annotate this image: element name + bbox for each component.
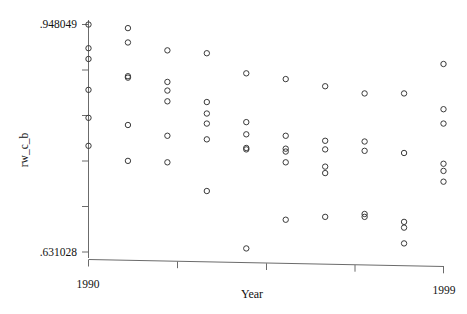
data-point	[283, 160, 288, 165]
data-point	[165, 88, 170, 93]
plot-canvas: .948049 .631028 1990 1999 Year rw_c_b	[0, 0, 467, 314]
x-axis-ticks	[89, 260, 444, 274]
data-point	[283, 133, 288, 138]
data-point-group	[86, 22, 446, 251]
data-point	[125, 40, 130, 45]
data-point	[125, 122, 130, 127]
data-point	[165, 133, 170, 138]
y-axis-title: rw_c_b	[18, 133, 30, 168]
data-point	[401, 91, 406, 96]
data-point	[362, 139, 367, 144]
data-point	[244, 71, 249, 76]
data-point	[322, 164, 327, 169]
data-point	[441, 121, 446, 126]
data-point	[322, 170, 327, 175]
x-axis-max-tick-label: 1999	[433, 284, 456, 296]
data-point	[244, 246, 249, 251]
data-point	[322, 147, 327, 152]
data-point	[362, 91, 367, 96]
scatter-plot-figure: .948049 .631028 1990 1999 Year rw_c_b	[0, 0, 467, 314]
data-point	[401, 219, 406, 224]
data-point	[322, 84, 327, 89]
data-point	[322, 214, 327, 219]
data-point	[125, 25, 130, 30]
data-point	[283, 76, 288, 81]
data-point	[165, 160, 170, 165]
data-point	[204, 137, 209, 142]
x-axis-min-tick-label: 1990	[77, 278, 100, 290]
data-point	[204, 111, 209, 116]
data-point	[204, 121, 209, 126]
y-axis-max-tick-label: .948049	[40, 18, 78, 30]
data-point	[165, 79, 170, 84]
data-point	[441, 179, 446, 184]
data-point	[244, 132, 249, 137]
data-point	[204, 99, 209, 104]
x-axis-title: Year	[241, 287, 263, 301]
data-point	[283, 217, 288, 222]
data-point	[401, 241, 406, 246]
data-point	[441, 168, 446, 173]
data-point	[165, 99, 170, 104]
y-axis-ticks	[82, 25, 89, 253]
data-point	[441, 161, 446, 166]
data-point	[362, 148, 367, 153]
data-point	[401, 150, 406, 155]
y-axis-min-tick-label: .631028	[40, 246, 78, 258]
data-point	[401, 225, 406, 230]
data-point	[322, 138, 327, 143]
data-point	[204, 51, 209, 56]
data-point	[244, 119, 249, 124]
data-point	[441, 61, 446, 66]
data-point	[125, 158, 130, 163]
data-point	[204, 188, 209, 193]
data-point	[441, 107, 446, 112]
data-point	[165, 48, 170, 53]
